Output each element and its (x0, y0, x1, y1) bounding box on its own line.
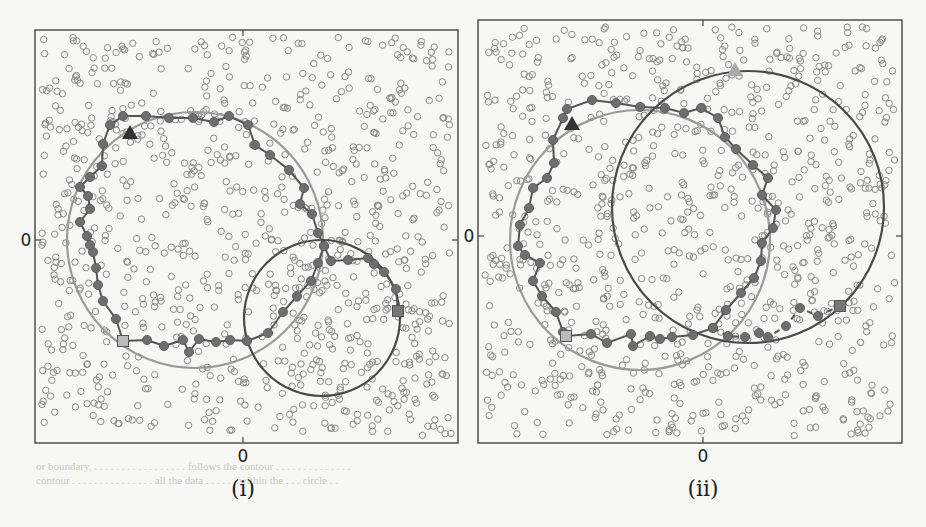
data-point (355, 298, 361, 304)
data-point (175, 293, 181, 299)
data-point (122, 322, 128, 328)
data-point (120, 177, 126, 183)
data-point (341, 166, 347, 172)
data-point (737, 47, 743, 53)
data-point (314, 343, 320, 349)
data-point (322, 403, 328, 409)
data-point (283, 74, 289, 80)
data-point (303, 88, 309, 94)
data-point (315, 322, 321, 328)
data-point (567, 373, 573, 379)
data-point (677, 351, 683, 357)
data-point (137, 417, 143, 423)
data-point (596, 230, 602, 236)
data-point (729, 24, 735, 30)
data-point (510, 372, 516, 378)
data-point (888, 340, 894, 346)
data-point (807, 290, 813, 296)
data-point (127, 139, 133, 145)
data-point (338, 89, 344, 95)
path-point (194, 334, 203, 343)
data-point (125, 415, 131, 421)
data-point (223, 179, 229, 185)
data-point (124, 197, 130, 203)
data-point (605, 285, 611, 291)
data-point (862, 241, 868, 247)
data-point (607, 303, 613, 309)
data-point (631, 148, 637, 154)
data-point (423, 310, 429, 316)
data-point (801, 167, 807, 173)
data-point (846, 237, 852, 243)
data-point (66, 65, 72, 71)
data-point (159, 152, 165, 158)
data-point (598, 399, 604, 405)
data-point (211, 304, 217, 310)
data-point (595, 205, 601, 211)
data-point (306, 342, 312, 348)
data-point (838, 175, 844, 181)
data-point (665, 248, 671, 254)
data-point (86, 280, 92, 286)
data-point (890, 106, 896, 112)
data-point (332, 425, 338, 431)
data-point (157, 294, 163, 300)
data-point (710, 244, 716, 250)
data-point (335, 203, 341, 209)
data-point (230, 211, 236, 217)
data-point (649, 68, 655, 74)
data-point (687, 313, 693, 319)
data-point (304, 139, 310, 145)
data-point (209, 418, 215, 424)
data-point (519, 113, 525, 119)
path-point (299, 183, 308, 192)
data-point (160, 135, 166, 141)
data-point (821, 378, 827, 384)
data-point (375, 416, 381, 422)
data-point (336, 396, 342, 402)
data-point (508, 328, 514, 334)
data-point (439, 79, 445, 85)
data-point (739, 174, 745, 180)
data-point (345, 69, 351, 75)
data-point (355, 239, 361, 245)
data-point (594, 382, 600, 388)
data-point (385, 391, 391, 397)
path-point (178, 335, 187, 344)
data-point (320, 129, 326, 135)
data-point (626, 191, 632, 197)
data-point (641, 30, 647, 36)
data-point (121, 289, 127, 295)
data-point (236, 109, 242, 115)
data-point (774, 264, 780, 270)
data-point (380, 386, 386, 392)
data-point (804, 237, 810, 243)
data-point (597, 251, 603, 257)
data-point (401, 396, 407, 402)
data-point (863, 25, 869, 31)
data-point (496, 261, 502, 267)
data-point (271, 121, 277, 127)
data-point (499, 275, 505, 281)
data-point (64, 126, 70, 132)
data-point (836, 159, 842, 165)
data-point (83, 265, 89, 271)
data-point (885, 408, 891, 414)
data-point (830, 107, 836, 113)
data-point (324, 202, 330, 208)
data-point (579, 364, 585, 370)
data-point (831, 149, 837, 155)
data-point (140, 320, 146, 326)
data-point (385, 428, 391, 434)
data-point (700, 371, 706, 377)
data-point (647, 205, 653, 211)
data-point (47, 124, 53, 130)
data-point (547, 262, 553, 268)
data-point (423, 192, 429, 198)
data-point (192, 253, 198, 259)
data-point (281, 196, 287, 202)
path-point (528, 276, 537, 285)
data-point (595, 154, 601, 160)
data-point (808, 274, 814, 280)
data-point (883, 114, 889, 120)
